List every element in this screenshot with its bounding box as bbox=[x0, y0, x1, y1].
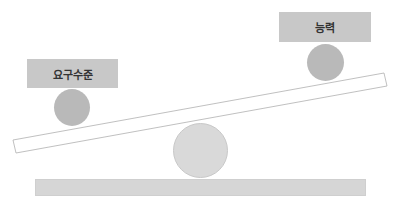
fulcrum-circle bbox=[173, 123, 228, 178]
base-bar bbox=[35, 179, 366, 196]
